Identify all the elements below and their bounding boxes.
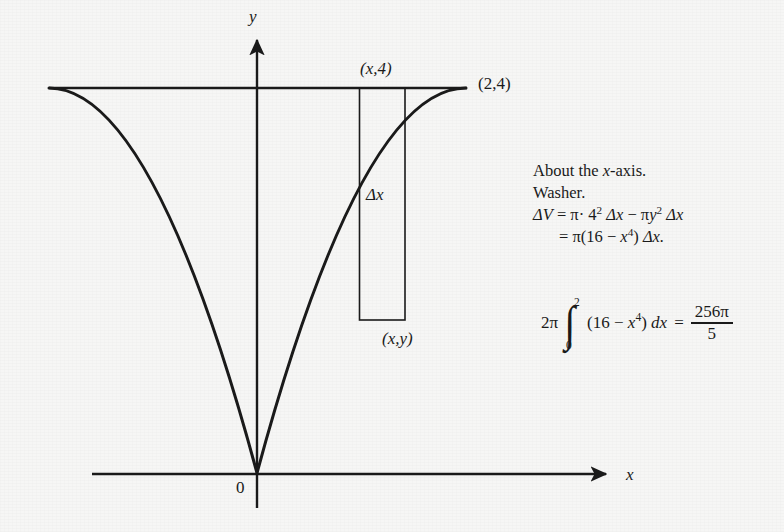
annotation-text-block: About the x-axis. Washer. ΔV = π· 42 Δx … [533, 160, 783, 248]
x-axis-label: x [626, 466, 634, 483]
integral-equals-sign: = [674, 313, 684, 333]
y-axis-label: y [249, 8, 257, 25]
label-point-x-y: (x,y) [382, 330, 413, 347]
integral-sign-group: 2 ∫ 0 [562, 296, 582, 350]
integral-expression: 2π 2 ∫ 0 (16 − x4) dx = 256π 5 [541, 296, 733, 350]
label-delta-x: Δx [366, 186, 384, 203]
integral-lower-limit: 0 [566, 339, 572, 351]
annotation-line-method: Washer. [533, 182, 783, 204]
representative-strip-rectangle [360, 88, 406, 320]
figure-drawing-canvas [0, 0, 784, 532]
fraction-denominator: 5 [704, 324, 721, 344]
label-point-2-4: (2,4) [478, 75, 511, 92]
calculus-figure: (x,4) (2,4) (x,y) Δx y x 0 About the x-a… [0, 0, 784, 532]
integral-result-fraction: 256π 5 [691, 303, 733, 344]
fraction-numerator: 256π [691, 303, 733, 323]
annotation-line-simplified: = π(16 − x4) Δx. [533, 226, 783, 248]
annotation-line-about-axis: About the x-axis. [533, 160, 783, 182]
annotation-line-delta-v: ΔV = π· 42 Δx − πy2 Δx [533, 204, 783, 226]
integral-coefficient: 2π [541, 313, 558, 333]
origin-label: 0 [236, 479, 245, 496]
label-point-x-4: (x,4) [360, 60, 392, 77]
integrand: (16 − x4) dx [587, 313, 667, 333]
